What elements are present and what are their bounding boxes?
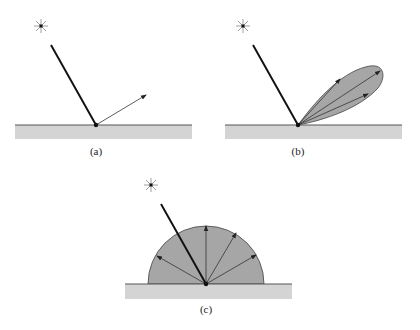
panel-b-glossy: (b)	[225, 19, 402, 158]
contact-point	[204, 282, 208, 286]
ground-surface	[125, 284, 292, 299]
incident-ray	[253, 45, 298, 125]
panel-c-diffuse: (c)	[125, 178, 292, 316]
reflected-ray-arrow	[96, 95, 146, 125]
ground-surface	[225, 125, 402, 139]
reflected-ray-arrow	[298, 71, 380, 125]
light-source-star-icon	[144, 178, 158, 192]
panel-label-a: (a)	[90, 145, 103, 158]
light-source-star-icon	[236, 19, 250, 33]
panel-label-b: (b)	[292, 145, 305, 158]
panel-label-c: (c)	[200, 303, 213, 316]
reflection-diagram: (a) (b) (c)	[0, 0, 420, 330]
light-source-star-icon	[34, 19, 48, 33]
ground-surface	[15, 125, 192, 139]
incident-ray	[51, 45, 96, 125]
contact-point	[94, 123, 98, 127]
glossy-lobe	[298, 66, 383, 125]
contact-point	[296, 123, 300, 127]
panel-a-specular: (a)	[15, 19, 192, 158]
